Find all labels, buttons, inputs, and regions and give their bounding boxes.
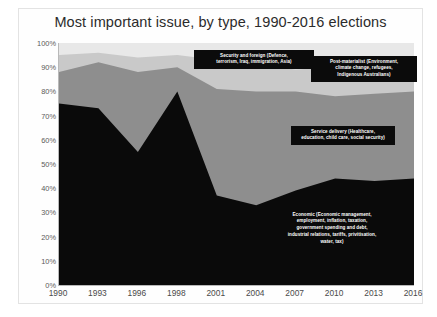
annotation-line: industrial relations, tariffs, privitisa… (276, 232, 388, 239)
x-axis: 1990199319961998200120042007201020132016 (58, 288, 413, 304)
y-axis-tick: 90% (22, 63, 56, 72)
y-axis-tick: 30% (22, 208, 56, 217)
y-axis-tick: 60% (22, 135, 56, 144)
annotation-security-and-foreign: Security and foreign (Defence,terrorism,… (194, 50, 314, 69)
x-axis-tick: 1996 (128, 288, 147, 298)
y-axis-tick: 80% (22, 87, 56, 96)
y-axis-tick: 40% (22, 184, 56, 193)
annotation-line: Service delivery (Healthcare, (295, 129, 391, 136)
y-axis-tick: 10% (22, 256, 56, 265)
y-axis-tick: 20% (22, 232, 56, 241)
annotation-line: terrorism, Iraq, immigration, Asia) (198, 59, 310, 66)
annotation-line: education, child care, social security) (295, 135, 391, 142)
annotation-line: Indigenous Australians) (315, 72, 413, 79)
x-axis-tick: 2010 (325, 288, 344, 298)
x-axis-tick: 2013 (364, 288, 383, 298)
annotation-line: Security and foreign (Defence, (198, 53, 310, 60)
x-axis-tick: 2016 (404, 288, 423, 298)
x-axis-tick: 2007 (285, 288, 304, 298)
x-axis-tick: 1993 (88, 288, 107, 298)
x-axis-tick: 2001 (206, 288, 225, 298)
x-axis-tick: 1990 (49, 288, 68, 298)
annotation-line: climate change, refugees, (315, 65, 413, 72)
annotation-economic: Economic (Economic management,employment… (272, 209, 392, 248)
annotation-line: Economic (Economic management, (276, 212, 388, 219)
annotation-line: Post-materialist (Environment, (315, 59, 413, 66)
chart-screenshot: Most important issue, by type, 1990-2016… (0, 0, 437, 317)
y-axis: 100%90%80%70%60%50%40%30%20%10%0% (18, 43, 56, 285)
x-axis-tick: 2004 (246, 288, 265, 298)
annotation-line: government spending and debt, (276, 225, 388, 232)
annotation-post-materialist: Post-materialist (Environment,climate ch… (311, 56, 417, 82)
annotation-line: water, tax) (276, 239, 388, 246)
y-axis-tick: 100% (22, 39, 56, 48)
annotation-line: employment, inflation, taxation, (276, 218, 388, 225)
y-axis-tick: 70% (22, 111, 56, 120)
x-axis-tick: 1998 (167, 288, 186, 298)
y-axis-tick: 50% (22, 160, 56, 169)
chart-title: Most important issue, by type, 1990-2016… (18, 14, 423, 30)
annotation-service-delivery: Service delivery (Healthcare,education, … (291, 126, 395, 145)
